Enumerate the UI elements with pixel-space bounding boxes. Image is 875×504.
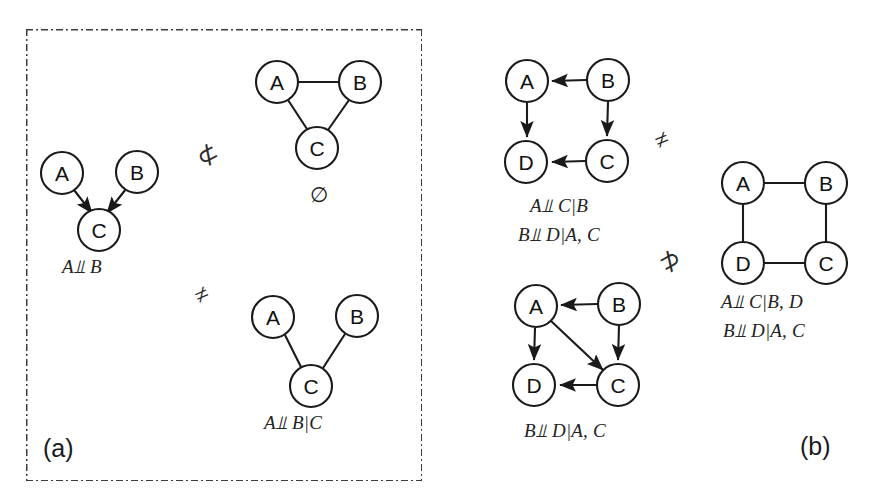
caption-b-square-ug-1: A⫫ C|B, D: [721, 291, 803, 313]
caption-a-vstructure: A⫫ B|C: [264, 412, 322, 434]
node-label-d: D: [518, 151, 533, 174]
graph-a-vstructure-ug: A B C: [252, 295, 378, 407]
node-label-c: C: [91, 219, 106, 242]
node-label-c: C: [818, 252, 833, 275]
caption-b-square-dag-2: B⫫ D|A, C: [518, 224, 600, 246]
panel-a-tag: (a): [43, 434, 74, 463]
caption-b-square-dag-1: A⫫ C|B: [530, 195, 588, 217]
caption-a-collider: A⫫ B: [62, 256, 102, 278]
figure-canvas: A B C A B C A B C: [0, 0, 875, 504]
edge-b-to-c: [618, 326, 619, 360]
node-label-b: B: [130, 161, 144, 184]
node-label-c: C: [303, 375, 318, 398]
node-label-a: A: [529, 295, 543, 318]
node-label-d: D: [735, 252, 750, 275]
node-label-c: C: [309, 137, 324, 160]
edge-c-to-d: [552, 161, 585, 162]
graph-a-triangle-ug: A B C: [256, 61, 381, 169]
caption-b-square-ug-2: B⫫ D|A, C: [723, 320, 805, 342]
edge-a-c: [288, 100, 307, 129]
edge-b-to-a: [561, 304, 597, 305]
node-label-b: B: [350, 305, 364, 328]
node-label-a: A: [736, 172, 750, 195]
graph-b-square-dag: A B D C: [505, 59, 629, 183]
node-label-a: A: [266, 306, 280, 329]
edge-a-to-c: [74, 190, 92, 213]
node-label-b: B: [601, 69, 615, 92]
node-label-a: A: [520, 70, 534, 93]
graph-b-moral-dag: A B D C: [513, 283, 640, 406]
edge-b-c: [323, 334, 345, 368]
edge-b-to-a: [552, 80, 586, 81]
graph-layer: A B C A B C A B C: [0, 0, 875, 504]
caption-b-moral-dag-1: B⫫ D|A, C: [524, 420, 606, 442]
graph-b-square-ug: A B D C: [722, 162, 847, 284]
node-label-c: C: [599, 150, 614, 173]
edge-b-c: [328, 100, 349, 130]
caption-a-triangle: ∅: [310, 183, 328, 208]
node-label-b: B: [819, 172, 833, 195]
node-label-b: B: [353, 71, 367, 94]
node-label-a: A: [270, 71, 284, 94]
node-label-c: C: [610, 374, 625, 397]
edge-b-to-c: [107, 189, 126, 213]
edge-b-to-c: [607, 102, 608, 136]
panel-b-tag: (b): [800, 432, 831, 461]
edge-a-to-c: [551, 321, 603, 370]
node-label-a: A: [55, 162, 69, 185]
graph-a-collider-dag: A B C: [41, 151, 158, 251]
node-label-d: D: [526, 374, 541, 397]
edge-a-c: [285, 335, 301, 367]
node-label-b: B: [612, 293, 626, 316]
edge-a-to-d: [534, 328, 535, 360]
